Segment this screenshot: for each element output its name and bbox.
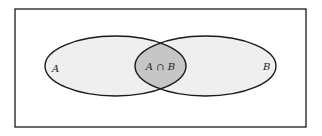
intersection-label: A ∩ B — [145, 61, 175, 72]
set-b-label: B — [262, 61, 270, 72]
venn-diagram: A B A ∩ B — [0, 0, 322, 136]
set-a-label: A — [51, 63, 59, 74]
